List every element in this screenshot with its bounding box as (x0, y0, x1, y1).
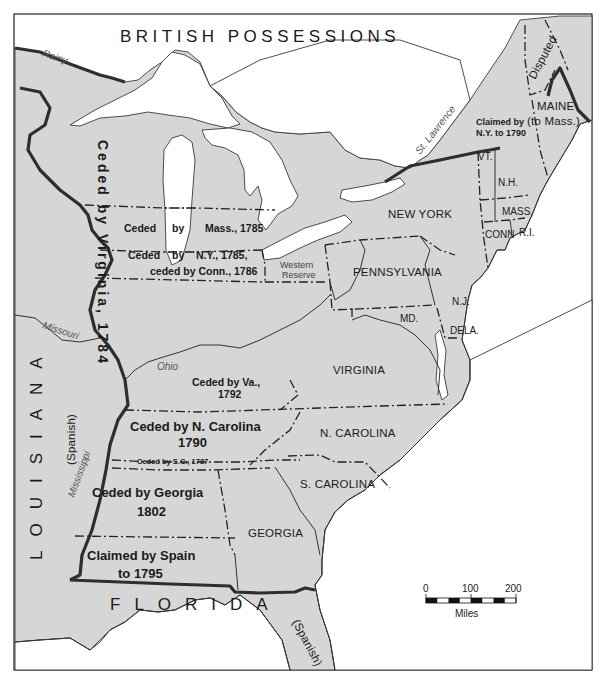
label-mass: MASS. (502, 206, 533, 217)
label-dela: DELA. (450, 325, 479, 336)
scale-tick-100: 100 (462, 583, 479, 594)
label-ceded-by-virginia-1784: Ceded by Virginia, 1784 (95, 140, 111, 366)
label-s-carolina: S. CAROLINA (300, 478, 375, 490)
label-ceded-conn-1786: ceded by Conn., 1786 (150, 265, 258, 277)
scale-tick-0: 0 (423, 583, 429, 594)
label-ceded-va-1792-2: 1792 (218, 388, 242, 400)
label-louisiana: LOUISIANA (27, 343, 46, 560)
label-western-reserve-2: Reserve (282, 270, 316, 280)
label-pennsylvania: PENNSYLVANIA (353, 266, 442, 278)
label-ceded-mass-c: Mass., 1785 (205, 222, 264, 234)
label-claimed-spain-1795-1: Claimed by Spain (87, 548, 195, 563)
label-maine: MAINE (537, 100, 575, 112)
label-ceded-ny-b: by (172, 249, 184, 261)
label-ohio-river: Ohio (157, 361, 179, 372)
historical-map: BRITISH POSSESSIONS Rainy St. Lawrence M… (0, 0, 606, 691)
label-vt: VT. (478, 151, 492, 162)
label-ceded-sc-1787: Ceded by S.C., 1787 (137, 457, 208, 466)
label-ceded-va-1792-1: Ceded by Va., (192, 376, 260, 388)
label-ceded-nc-1790-2: 1790 (178, 435, 207, 450)
label-ceded-mass-a: Ceded (124, 222, 156, 234)
label-ceded-ny-a: Ceded (128, 249, 160, 261)
label-maine-note: (to Mass.) (527, 115, 580, 127)
label-georgia: GEORGIA (248, 527, 303, 539)
label-louisiana-spanish: (Spanish) (65, 414, 77, 465)
title-british-possessions: BRITISH POSSESSIONS (120, 27, 400, 46)
label-claimed-spain-1795-2: to 1795 (118, 566, 163, 581)
label-ceded-nc-1790-1: Ceded by N. Carolina (130, 419, 262, 434)
label-virginia: VIRGINIA (333, 364, 385, 376)
label-conn: CONN (485, 229, 514, 240)
label-nj: N.J. (452, 296, 470, 307)
label-ceded-ga-1802-2: 1802 (137, 504, 166, 519)
label-nh: N.H. (498, 177, 518, 188)
label-ri: R.I. (519, 227, 535, 238)
label-claimed-by-ny-1: Claimed by (476, 117, 524, 127)
label-md: MD. (400, 313, 418, 324)
label-claimed-by-ny-2: N.Y. to 1790 (476, 128, 526, 138)
label-n-carolina: N. CAROLINA (320, 427, 396, 439)
label-ceded-ny-c: N.Y., 1785, (196, 249, 247, 261)
scale-unit: Miles (455, 608, 478, 619)
label-ceded-mass-b: by (172, 222, 184, 234)
label-new-york: NEW YORK (388, 208, 452, 220)
label-ceded-ga-1802-1: Ceded by Georgia (92, 485, 204, 500)
label-florida: FLORIDA (110, 595, 282, 614)
label-western-reserve-1: Western (280, 260, 313, 270)
scale-tick-200: 200 (505, 583, 522, 594)
